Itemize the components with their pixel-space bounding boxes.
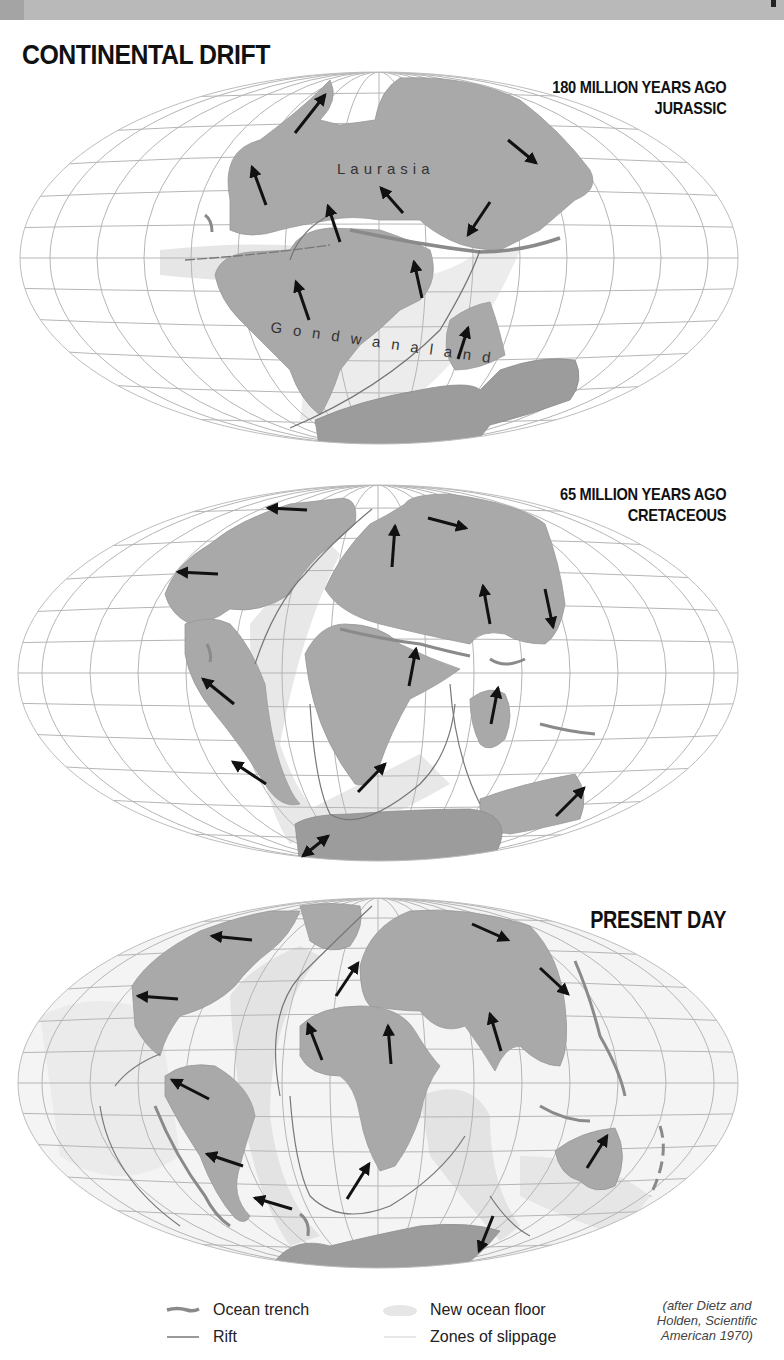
legend-label: New ocean floor [430, 1301, 546, 1319]
legend-label: Rift [213, 1328, 237, 1346]
arrow-icon [178, 572, 218, 574]
map-cretaceous [0, 484, 784, 866]
rift-swatch-icon [165, 1331, 201, 1343]
legend-label: Ocean trench [213, 1301, 309, 1319]
slippage-swatch-icon [382, 1331, 418, 1343]
continent-label-laurasia: Laurasia [337, 160, 435, 177]
new-ocean-floor-swatch-icon [382, 1304, 418, 1316]
legend-item-ocean-trench: Ocean trench [165, 1301, 309, 1319]
graticule [0, 70, 784, 450]
header-band-tab [0, 0, 24, 20]
page-title: CONTINENTAL DRIFT [22, 40, 270, 71]
legend-label: Zones of slippage [430, 1328, 556, 1346]
page-corner-mark [771, 0, 776, 7]
ocean-trench-swatch-icon [165, 1304, 201, 1316]
legend-item-zones-of-slippage: Zones of slippage [382, 1328, 556, 1346]
map-present-day [0, 896, 784, 1272]
map-jurassic: Laurasia Gondwanaland [0, 70, 784, 450]
legend-item-new-ocean-floor: New ocean floor [382, 1301, 546, 1319]
source-credit: (after Dietz and Holden, Scientific Amer… [652, 1298, 762, 1343]
legend-item-rift: Rift [165, 1328, 237, 1346]
arrow-icon [268, 508, 307, 510]
header-band [0, 0, 784, 20]
